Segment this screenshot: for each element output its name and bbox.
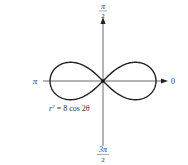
arrow-right-icon [161,79,168,84]
label-3pi-over-2-numerator: 3π [98,145,108,154]
label-pi: π [33,76,38,86]
pole-point [102,80,105,83]
polar-diagram: π 2 3π 2 π 0 r2 = 8 cos 2θ [0,0,188,165]
label-3pi-over-2-denominator: 2 [101,156,105,164]
polar-graph-canvas: π 2 3π 2 π 0 r2 = 8 cos 2θ [0,0,188,165]
label-pi-over-2-numerator: π [101,2,106,11]
label-pi-over-2-denominator: 2 [101,12,105,20]
label-zero: 0 [171,77,175,86]
equation-label: r2 = 8 cos 2θ [49,104,90,113]
